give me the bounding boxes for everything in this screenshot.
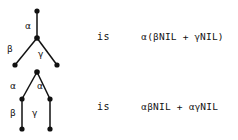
tree-graphics-layer xyxy=(0,0,238,140)
node-leaf-right-row1 xyxy=(54,62,59,67)
expression-row1: α(βNIL + γNIL) xyxy=(141,32,224,42)
edge-beta-row1 xyxy=(15,38,37,65)
node-leaf-left-row2 xyxy=(19,126,24,131)
edge-label-alpha-row1: α xyxy=(25,22,31,31)
edge-label-beta-row2: β xyxy=(10,109,16,118)
edge-label-gamma-row1: γ xyxy=(38,50,43,59)
node-leaf-right-row2 xyxy=(47,126,52,131)
node-leaf-left-row1 xyxy=(12,62,17,67)
node-mid-row1 xyxy=(34,35,40,41)
node-mid-left-row2 xyxy=(19,96,24,101)
edge-label-beta-row1: β xyxy=(7,45,13,54)
relation-word-row1: is xyxy=(97,32,110,42)
edge-label-alpha-left-row2: α xyxy=(10,82,16,91)
node-root-row2 xyxy=(34,69,40,75)
diagram-canvas: α β γ α α β γ is is α(βNIL + γNIL) αβNIL… xyxy=(0,0,238,140)
node-root-row1 xyxy=(34,8,39,13)
expression-row2: αβNIL + αγNIL xyxy=(141,102,218,112)
node-mid-right-row2 xyxy=(47,96,52,101)
edge-label-alpha-right-row2: α xyxy=(37,82,43,91)
relation-word-row2: is xyxy=(97,102,110,112)
edge-alpha-left-row2 xyxy=(22,72,37,99)
tree-row-1 xyxy=(12,8,59,67)
tree-row-2 xyxy=(19,69,52,131)
edge-label-gamma-row2: γ xyxy=(32,109,37,118)
